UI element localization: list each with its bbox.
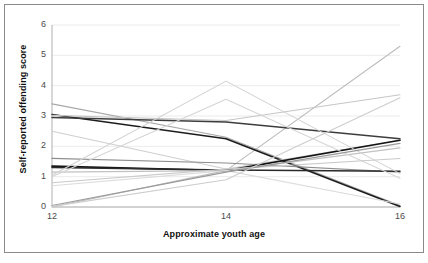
- y-axis-title: Self-reported offending score: [18, 34, 28, 184]
- series-line-youth-08: [52, 140, 400, 170]
- x-tick-14: 14: [211, 211, 241, 221]
- x-tick-12: 12: [37, 211, 67, 221]
- y-tick-0: 0: [24, 201, 46, 211]
- series-lines: [52, 46, 400, 207]
- chart-figure: 0123456 121416 Self-reported offending s…: [0, 0, 428, 263]
- series-line-youth-11: [52, 81, 400, 175]
- series-line-youth-14: [52, 171, 400, 204]
- y-tick-6: 6: [24, 19, 46, 29]
- x-tick-16: 16: [385, 211, 415, 221]
- series-line-youth-01: [52, 46, 400, 207]
- x-axis-title: Approximate youth age: [0, 229, 428, 239]
- spaghetti-plot-canvas: [0, 0, 428, 263]
- series-line-youth-04: [52, 95, 400, 121]
